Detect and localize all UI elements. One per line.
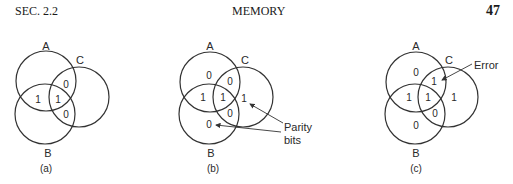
label-b: B bbox=[44, 147, 51, 159]
parity-label: Parity bbox=[284, 121, 313, 133]
venn-diagram-c: A C B 0 1 1 1 1 0 0 Error (c) bbox=[385, 40, 499, 174]
value-ab: 1 bbox=[200, 92, 206, 103]
label-b: B bbox=[412, 147, 419, 159]
value-ac-error: 1 bbox=[431, 76, 437, 87]
value-ab: 1 bbox=[406, 92, 412, 103]
error-label: Error bbox=[474, 59, 499, 71]
value-abc: 1 bbox=[425, 92, 431, 103]
venn-diagrams: A C B 0 1 1 0 (a) A C B 0 0 1 1 1 0 0 Pa… bbox=[0, 0, 513, 184]
circle-a bbox=[386, 52, 446, 112]
venn-diagram-a: A C B 0 1 1 0 (a) bbox=[15, 40, 109, 174]
value-ab: 1 bbox=[35, 94, 41, 105]
value-a: 0 bbox=[413, 67, 419, 78]
label-a: A bbox=[42, 40, 50, 52]
value-abc: 1 bbox=[220, 92, 226, 103]
caption-c: (c) bbox=[410, 163, 422, 174]
venn-diagram-b: A C B 0 0 1 1 1 0 0 Parity bits (b) bbox=[179, 40, 313, 174]
label-a: A bbox=[206, 40, 214, 52]
value-bc: 0 bbox=[227, 108, 233, 119]
label-b: B bbox=[207, 147, 214, 159]
value-b: 0 bbox=[413, 120, 419, 131]
value-b-parity: 0 bbox=[206, 119, 212, 130]
error-arrow bbox=[442, 64, 472, 80]
parity-arrow-c bbox=[250, 104, 283, 123]
value-abc: 1 bbox=[55, 94, 61, 105]
label-a: A bbox=[412, 40, 420, 52]
value-ac: 0 bbox=[227, 76, 233, 87]
caption-b: (b) bbox=[207, 163, 219, 174]
value-c: 1 bbox=[451, 92, 457, 103]
label-c: C bbox=[76, 54, 84, 66]
caption-a: (a) bbox=[40, 163, 52, 174]
label-c: C bbox=[241, 54, 249, 66]
value-bc: 0 bbox=[63, 109, 69, 120]
parity-label-bits: bits bbox=[284, 134, 302, 146]
label-c: C bbox=[445, 54, 453, 66]
value-ac: 0 bbox=[63, 79, 69, 90]
value-bc: 0 bbox=[432, 108, 438, 119]
value-a: 0 bbox=[206, 70, 212, 81]
value-c-parity: 1 bbox=[241, 93, 247, 104]
